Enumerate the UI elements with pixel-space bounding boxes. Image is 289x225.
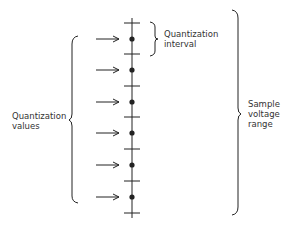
label-line: voltage: [248, 109, 280, 119]
value-arrows: [96, 36, 119, 200]
label-line: values: [12, 121, 66, 131]
label-line: interval: [164, 39, 218, 49]
left-brace: [69, 36, 78, 203]
label-line: Quantization: [12, 111, 66, 121]
right-brace: [232, 10, 241, 215]
quantization-interval-label: Quantization interval: [164, 29, 218, 49]
label-line: Quantization: [164, 29, 218, 39]
label-line: range: [248, 119, 280, 129]
label-line: Sample: [248, 99, 280, 109]
sample-voltage-range-label: Sample voltage range: [248, 99, 280, 129]
interval-brace: [150, 22, 158, 56]
quantization-values-label: Quantization values: [12, 111, 66, 131]
